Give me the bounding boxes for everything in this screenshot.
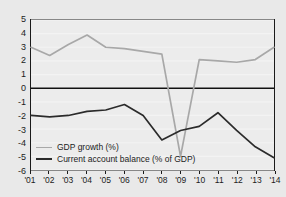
- y-axis-tick-label: -5: [2, 152, 26, 162]
- x-axis-tick-mark: [30, 171, 31, 174]
- x-axis-tick-mark: [143, 171, 144, 174]
- legend-label-gdp-growth: GDP growth (%): [57, 142, 119, 152]
- x-axis-tick-mark: [48, 171, 49, 174]
- x-axis-tick-mark: [86, 171, 87, 174]
- x-axis-tick-label: '07: [138, 175, 149, 185]
- x-axis-tick-label: '04: [81, 175, 92, 185]
- x-axis-tick-label: '09: [175, 175, 186, 185]
- y-axis-tick-label: 3: [2, 42, 26, 52]
- x-axis-tick-label: '08: [156, 175, 167, 185]
- x-axis-tick-label: '12: [232, 175, 243, 185]
- x-axis-tick-label: '10: [194, 175, 205, 185]
- x-axis-tick-label: '03: [62, 175, 73, 185]
- x-axis-tick-label: '06: [119, 175, 130, 185]
- x-axis-tick-mark: [67, 171, 68, 174]
- x-axis-tick-mark: [124, 171, 125, 174]
- y-axis-tick-label: 2: [2, 55, 26, 65]
- x-axis-tick-mark: [275, 171, 276, 174]
- chart-figure: 543210-1-2-3-4-5-6 '01'02'03'04'05'06'07…: [0, 0, 286, 197]
- legend-swatch-gdp-growth: [36, 147, 52, 148]
- y-axis-tick-label: 0: [2, 83, 26, 93]
- x-axis-tick-mark: [256, 171, 257, 174]
- y-axis-tick-label: -2: [2, 111, 26, 121]
- x-axis-tick-mark: [105, 171, 106, 174]
- legend-item-current-account: Current account balance (% of GDP): [36, 153, 195, 165]
- y-axis-tick-label: -4: [2, 138, 26, 148]
- x-axis-tick-mark: [180, 171, 181, 174]
- legend-item-gdp-growth: GDP growth (%): [36, 141, 195, 153]
- x-axis-tick-mark: [218, 171, 219, 174]
- y-axis-tick-label: -1: [2, 97, 26, 107]
- x-axis-tick-label: '14: [269, 175, 280, 185]
- x-axis-tick-label: '13: [251, 175, 262, 185]
- y-axis-tick-label: -3: [2, 125, 26, 135]
- x-axis-tick-label: '01: [24, 175, 35, 185]
- chart-legend: GDP growth (%) Current account balance (…: [36, 141, 195, 165]
- legend-swatch-current-account: [36, 158, 52, 160]
- x-axis-tick-label: '02: [43, 175, 54, 185]
- x-axis-tick-label: '05: [100, 175, 111, 185]
- x-axis-tick-label: '11: [213, 175, 223, 185]
- legend-label-current-account: Current account balance (% of GDP): [57, 154, 195, 164]
- x-axis-tick-mark: [199, 171, 200, 174]
- series-line: [31, 35, 274, 156]
- x-axis-tick-mark: [161, 171, 162, 174]
- y-axis-tick-label: 5: [2, 14, 26, 24]
- y-axis-tick-label: 4: [2, 28, 26, 38]
- y-axis-tick-label: 1: [2, 69, 26, 79]
- x-axis-tick-mark: [237, 171, 238, 174]
- y-axis-tick-label: -6: [2, 166, 26, 176]
